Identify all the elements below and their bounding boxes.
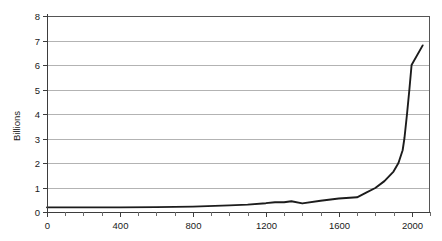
y-tick-label-3: 3 (35, 134, 40, 145)
y-tick-label-7: 7 (35, 36, 40, 47)
y-tick-label-4: 4 (35, 109, 40, 120)
y-axis-ticks (43, 17, 47, 213)
y-tick-label-8: 8 (35, 11, 40, 22)
x-tick-label-1600: 1600 (329, 220, 350, 231)
y-tick-label-1: 1 (35, 183, 40, 194)
population-growth-chart: 012345678 0400800120016002000 Billions (0, 0, 442, 241)
x-tick-label-400: 400 (113, 220, 129, 231)
y-tick-label-2: 2 (35, 158, 40, 169)
y-axis-tick-labels: 012345678 (35, 11, 40, 218)
y-tick-label-5: 5 (35, 85, 40, 96)
y-tick-label-0: 0 (35, 207, 40, 218)
y-axis-title: Billions (11, 111, 22, 141)
x-tick-label-1200: 1200 (256, 220, 277, 231)
x-axis-tick-labels: 0400800120016002000 (45, 220, 423, 231)
chart-canvas: 012345678 0400800120016002000 Billions (0, 0, 442, 241)
y-tick-label-6: 6 (35, 60, 40, 71)
x-tick-label-2000: 2000 (402, 220, 423, 231)
x-tick-label-800: 800 (186, 220, 202, 231)
x-tick-label-0: 0 (45, 220, 50, 231)
